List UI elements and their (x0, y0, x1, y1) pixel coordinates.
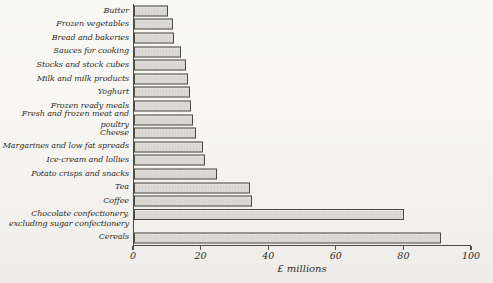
bar-row: Stocks and stock cubes (0, 58, 493, 72)
bar (134, 209, 404, 220)
category-label: Potato crisps and snacks (0, 169, 133, 180)
bar (134, 32, 174, 43)
category-label: Cereals (0, 232, 133, 243)
bar-row: Bread and bakeries (0, 31, 493, 45)
x-tick: 20 (195, 246, 207, 261)
bar-track (133, 208, 471, 231)
x-tick: 60 (330, 246, 342, 261)
bar (134, 73, 188, 84)
bar-track (133, 154, 471, 168)
bar-track (133, 72, 471, 86)
bar-track (133, 18, 471, 32)
bar-row: Tea (0, 181, 493, 195)
category-label: Cheese (0, 128, 133, 139)
bar (134, 168, 217, 179)
bar (134, 128, 196, 139)
category-label: Sauces for cooking (0, 46, 133, 57)
bar-row: Ice-cream and lollies (0, 154, 493, 168)
category-label: Coffee (0, 196, 133, 207)
bar-row: Coffee (0, 194, 493, 208)
bar (134, 5, 168, 16)
category-label: Fresh and frozen meat and poultry (0, 109, 133, 130)
x-tick: 0 (130, 246, 136, 261)
bar-row: Milk and milk products (0, 72, 493, 86)
category-label: Milk and milk products (0, 74, 133, 85)
scanned-page: Butter Frozen vegetables Bread and baker… (0, 0, 493, 283)
category-label: Yoghurt (0, 87, 133, 98)
x-tick-label: 100 (462, 250, 480, 261)
bar-row: Sauces for cooking (0, 45, 493, 59)
bar (134, 114, 193, 125)
bar-row: Potato crisps and snacks (0, 167, 493, 181)
bar-track (133, 181, 471, 195)
bar (134, 196, 252, 207)
bar (134, 100, 191, 111)
bar-track (133, 86, 471, 100)
bar-row: Yoghurt (0, 86, 493, 100)
bar-row: Margarines and low fat spreads (0, 140, 493, 154)
bar-track (133, 126, 471, 140)
category-label: Stocks and stock cubes (0, 60, 133, 71)
bar-track (133, 45, 471, 59)
bar (134, 155, 205, 166)
category-label: Bread and bakeries (0, 33, 133, 44)
category-label: Chocolate confectionery, excluding sugar… (0, 208, 133, 230)
bar (134, 232, 441, 243)
x-axis: 020406080100 (133, 245, 471, 262)
bar-track (133, 113, 471, 127)
bar (134, 141, 203, 152)
x-tick-label: 80 (397, 250, 409, 261)
bar-row: Cereals (0, 231, 493, 245)
x-tick: 100 (462, 246, 480, 261)
x-tick-label: 20 (195, 250, 207, 261)
x-tick: 40 (262, 246, 274, 261)
bar-track (133, 99, 471, 113)
bar (134, 19, 173, 30)
bar (134, 182, 250, 193)
bar (134, 60, 186, 71)
category-label: Tea (0, 182, 133, 193)
bar-row: Fresh and frozen meat and poultry (0, 113, 493, 127)
bar-row: Cheese (0, 126, 493, 140)
bar-row: Chocolate confectionery, excluding sugar… (0, 208, 493, 231)
bar-track (133, 194, 471, 208)
x-axis-title: £ millions (133, 263, 471, 274)
bar (134, 46, 181, 57)
category-label: Ice-cream and lollies (0, 155, 133, 166)
bar-track (133, 140, 471, 154)
x-tick: 80 (397, 246, 409, 261)
bar-track (133, 167, 471, 181)
category-label: Frozen vegetables (0, 19, 133, 30)
x-tick-label: 40 (262, 250, 274, 261)
bar-chart: Butter Frozen vegetables Bread and baker… (0, 4, 493, 274)
bar-rows: Butter Frozen vegetables Bread and baker… (0, 4, 493, 245)
bar-row: Butter (0, 4, 493, 18)
category-label: Margarines and low fat spreads (0, 141, 133, 152)
bar-track (133, 31, 471, 45)
bar-track (133, 4, 471, 18)
bar-row: Frozen vegetables (0, 18, 493, 32)
bar (134, 87, 190, 98)
x-tick-label: 60 (330, 250, 342, 261)
bar-track (133, 58, 471, 72)
bar-track (133, 231, 471, 245)
category-label: Butter (0, 6, 133, 17)
x-tick-label: 0 (130, 250, 136, 261)
